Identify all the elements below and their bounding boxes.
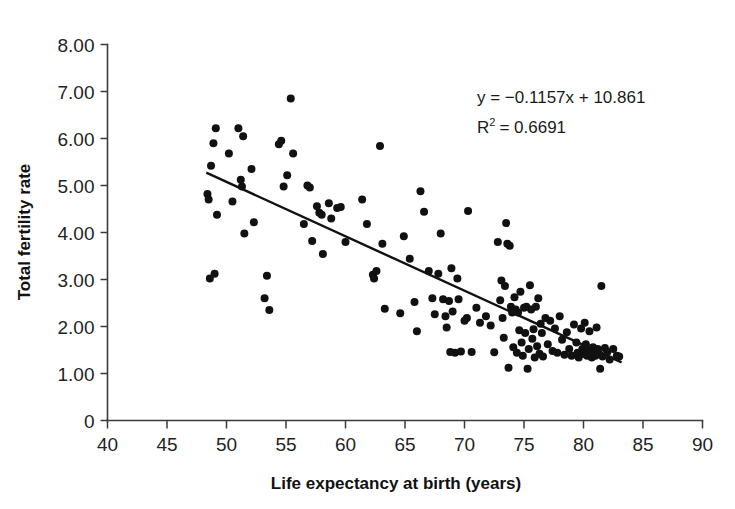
- data-point: [521, 329, 529, 337]
- data-point: [581, 319, 589, 327]
- data-point: [358, 196, 366, 204]
- data-point: [406, 255, 414, 263]
- data-point: [306, 183, 314, 191]
- data-point: [277, 137, 285, 145]
- data-point: [496, 296, 504, 304]
- data-point: [553, 349, 561, 357]
- data-point: [546, 317, 554, 325]
- r-squared-annotation: R2= 0.6691: [477, 116, 566, 137]
- data-point: [447, 264, 455, 272]
- data-point: [510, 293, 518, 301]
- r-squared-exponent: 2: [489, 116, 495, 128]
- data-point: [597, 282, 605, 290]
- data-point: [378, 240, 386, 248]
- trendline-layer: [206, 173, 621, 363]
- data-point: [534, 294, 542, 302]
- data-point: [211, 270, 219, 278]
- data-point: [585, 327, 593, 335]
- data-point: [490, 348, 498, 356]
- data-point: [457, 347, 465, 355]
- data-point: [525, 345, 533, 353]
- data-point: [287, 95, 295, 103]
- data-point: [363, 220, 371, 228]
- data-point: [207, 162, 215, 170]
- data-point: [500, 334, 508, 342]
- x-tick-label: 55: [275, 434, 296, 455]
- data-point: [247, 165, 255, 173]
- data-point: [487, 322, 495, 330]
- data-point: [501, 282, 509, 290]
- data-point: [449, 307, 457, 315]
- data-point: [502, 219, 510, 227]
- data-point: [205, 196, 213, 204]
- y-axis-title: Total fertility rate: [15, 164, 34, 301]
- y-axis-tick-labels: 01.002.003.004.005.006.007.008.00: [58, 35, 95, 432]
- data-point: [516, 288, 524, 296]
- data-point: [544, 340, 552, 348]
- data-point: [261, 294, 269, 302]
- x-tick-label: 65: [394, 434, 415, 455]
- data-point: [431, 310, 439, 318]
- data-point: [213, 211, 221, 219]
- data-point: [476, 319, 484, 327]
- data-point: [308, 237, 316, 245]
- data-point: [283, 171, 291, 179]
- data-point: [532, 303, 540, 311]
- data-point: [327, 214, 335, 222]
- data-point: [526, 281, 534, 289]
- data-point: [453, 275, 461, 283]
- data-point: [482, 312, 490, 320]
- data-point: [300, 220, 308, 228]
- x-axis-title: Life expectancy at birth (years): [271, 474, 521, 493]
- data-point: [400, 232, 408, 240]
- y-tick-label: 7.00: [58, 82, 95, 103]
- data-point: [437, 229, 445, 237]
- data-point: [396, 309, 404, 317]
- data-point: [538, 329, 546, 337]
- x-tick-label: 50: [216, 434, 237, 455]
- y-tick-label: 3.00: [58, 270, 95, 291]
- data-point: [499, 314, 507, 322]
- x-tick-label: 40: [97, 434, 118, 455]
- y-tick-label: 5.00: [58, 176, 95, 197]
- data-point: [464, 207, 472, 215]
- data-point: [420, 208, 428, 216]
- data-point: [416, 187, 424, 195]
- data-point: [225, 150, 233, 158]
- data-point: [556, 312, 564, 320]
- data-point: [539, 353, 547, 361]
- data-point: [428, 294, 436, 302]
- data-point: [289, 150, 297, 158]
- data-point: [494, 238, 502, 246]
- x-tick-label: 90: [692, 434, 713, 455]
- y-tick-label: 2.00: [58, 317, 95, 338]
- data-point: [519, 352, 527, 360]
- y-tick-label: 8.00: [58, 35, 95, 56]
- y-tick-label: 6.00: [58, 129, 95, 150]
- data-point: [381, 305, 389, 313]
- data-point: [265, 306, 273, 314]
- x-axis-tick-labels: 4045505560657075808590: [97, 434, 713, 455]
- chart-figure: 01.002.003.004.005.006.007.008.00 404550…: [0, 0, 735, 509]
- regression-equation-annotation: y = −0.1157x + 10.861: [477, 88, 645, 107]
- data-point: [228, 197, 236, 205]
- data-point: [505, 364, 513, 372]
- data-point: [250, 218, 258, 226]
- data-point: [472, 304, 480, 312]
- data-point: [530, 325, 538, 333]
- data-point: [239, 132, 247, 140]
- data-point: [318, 211, 326, 219]
- data-point: [413, 327, 421, 335]
- data-point: [455, 295, 463, 303]
- y-tick-label: 4.00: [58, 223, 95, 244]
- r-squared-value-text: = 0.6691: [499, 118, 566, 137]
- x-tick-label: 85: [632, 434, 653, 455]
- data-point: [319, 250, 327, 258]
- y-tick-label: 1.00: [58, 364, 95, 385]
- data-point: [212, 124, 220, 132]
- data-point: [445, 297, 453, 305]
- data-point: [372, 267, 380, 275]
- data-point: [240, 229, 248, 237]
- data-point: [570, 321, 578, 329]
- x-tick-label: 75: [513, 434, 534, 455]
